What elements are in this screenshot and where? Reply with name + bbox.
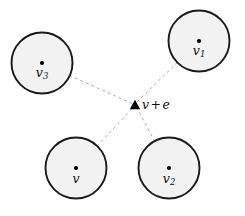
center-label-var1: v — [142, 97, 149, 112]
cluster-group — [12, 11, 230, 199]
node-dot-v2 — [167, 166, 171, 170]
node-label-v3: v3 — [36, 67, 48, 80]
center-label-operator: + — [149, 97, 162, 112]
contraction-diagram: v3 v1 v v2 v+e — [0, 0, 245, 216]
node-dot-v — [74, 166, 78, 170]
node-label-v2-sub: 2 — [170, 177, 175, 187]
node-label-v3-var: v — [36, 65, 43, 80]
center-label-var2: e — [163, 97, 170, 112]
node-label-v2-var: v — [163, 171, 170, 186]
node-label-v1-var: v — [193, 43, 200, 58]
node-label-v3-sub: 3 — [43, 71, 48, 81]
triangle-up-marker — [130, 100, 140, 109]
node-label-v1: v1 — [193, 45, 205, 58]
center-node-label: v+e — [142, 99, 170, 112]
node-label-v1-sub: 1 — [200, 49, 205, 59]
node-label-v: v — [72, 173, 79, 186]
node-label-v2: v2 — [163, 173, 175, 186]
node-label-v-var: v — [72, 171, 79, 186]
diagram-canvas — [0, 0, 245, 216]
